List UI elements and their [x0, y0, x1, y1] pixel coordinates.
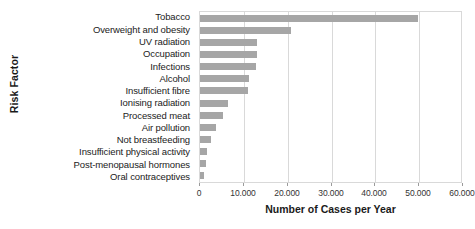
x-tick-label: 30.000 [318, 188, 343, 198]
category-label: Insufficient physical activity [26, 146, 194, 158]
bar [200, 39, 257, 46]
bar [200, 15, 418, 22]
bar-row [200, 97, 461, 109]
x-tick-label: 50.000 [405, 188, 430, 198]
bar-row [200, 12, 461, 24]
category-label: Processed meat [26, 109, 194, 121]
y-axis-title: Risk Factor [8, 44, 20, 124]
y-axis-category-labels: TobaccoOverweight and obesityUV radiatio… [26, 11, 194, 183]
category-label: Ionising radiation [26, 97, 194, 109]
tick-mark [374, 183, 375, 186]
bar [200, 27, 291, 34]
bar [200, 112, 223, 119]
category-label: Infections [26, 60, 194, 72]
category-label: Occupation [26, 48, 194, 60]
bar [200, 100, 228, 107]
bar-row [200, 73, 461, 85]
bar-row [200, 61, 461, 73]
x-tick-label: 60.000 [449, 188, 474, 198]
tick-mark [331, 183, 332, 186]
x-axis-title: Number of Cases per Year [199, 203, 462, 215]
bar-row [200, 85, 461, 97]
x-tick-label: 40.000 [361, 188, 386, 198]
category-label: Insufficient fibre [26, 85, 194, 97]
category-label: Overweight and obesity [26, 23, 194, 35]
bar-row [200, 121, 461, 133]
category-label: Alcohol [26, 72, 194, 84]
bar-row [200, 158, 461, 170]
bar-row [200, 146, 461, 158]
x-axis-tick-labels: 010.00020.00030.00040.00050.00060.000 [199, 188, 462, 200]
tick-mark [287, 183, 288, 186]
bar-row [200, 24, 461, 36]
category-label: Not breastfeeding [26, 134, 194, 146]
x-tick-label: 10.000 [230, 188, 255, 198]
tick-mark [418, 183, 419, 186]
bar-row [200, 36, 461, 48]
category-label: Air pollution [26, 122, 194, 134]
bar-row [200, 48, 461, 60]
bar [200, 172, 204, 179]
tick-mark [243, 183, 244, 186]
bar-row [200, 170, 461, 182]
category-label: Tobacco [26, 11, 194, 23]
bar-series [200, 12, 461, 182]
plot-area [199, 11, 462, 183]
category-label: Oral contraceptives [26, 171, 194, 183]
bar [200, 160, 206, 167]
x-tick-label: 20.000 [274, 188, 299, 198]
category-label: UV radiation [26, 36, 194, 48]
x-axis-tick-marks [199, 183, 462, 187]
bar-row [200, 109, 461, 121]
category-label: Post-menopausal hormones [26, 158, 194, 170]
bar [200, 87, 248, 94]
tick-mark [462, 183, 463, 186]
x-tick-label: 0 [197, 188, 202, 198]
bar [200, 136, 211, 143]
bar [200, 75, 249, 82]
bar [200, 63, 256, 70]
bar [200, 51, 257, 58]
bar-row [200, 133, 461, 145]
tick-mark [199, 183, 200, 186]
bar [200, 124, 216, 131]
bar [200, 148, 207, 155]
